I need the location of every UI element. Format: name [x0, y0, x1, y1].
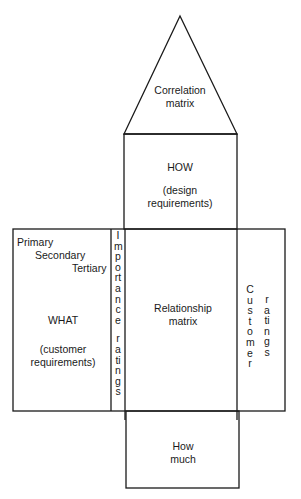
customer-word1-label: Customer	[244, 284, 256, 369]
what-level-tertiary: Tertiary	[72, 262, 106, 275]
roof-line2: matrix	[140, 97, 220, 110]
how-title: HOW	[130, 161, 230, 174]
how-much-line1: How	[140, 440, 226, 453]
relationship-line1: Relationship	[140, 302, 226, 315]
importance-word1: Importance	[114, 230, 122, 325]
what-title: WHAT	[18, 314, 108, 327]
what-sub2: requirements)	[18, 356, 108, 369]
how-much-label: How much	[140, 440, 226, 466]
customer-word1: Customer	[246, 284, 254, 369]
how-label: HOW (design requirements)	[130, 161, 230, 210]
customer-word2-label: ratings	[261, 294, 273, 358]
relationship-label: Relationship matrix	[140, 302, 226, 328]
customer-word2: ratings	[263, 294, 271, 358]
importance-word2: ratings	[114, 333, 122, 397]
how-sub2: requirements)	[130, 197, 230, 210]
roof-triangle	[124, 16, 237, 134]
importance-ratings-label: Importance ratings	[112, 230, 124, 397]
what-sub1: (customer	[18, 343, 108, 356]
what-level-secondary: Secondary	[35, 249, 85, 262]
roof-label: Correlation matrix	[140, 84, 220, 110]
what-level-primary: Primary	[17, 236, 53, 249]
what-sub: (customer requirements)	[18, 343, 108, 369]
how-much-line2: much	[140, 453, 226, 466]
roof-line1: Correlation	[140, 84, 220, 97]
relationship-line2: matrix	[140, 315, 226, 328]
how-sub1: (design	[130, 184, 230, 197]
